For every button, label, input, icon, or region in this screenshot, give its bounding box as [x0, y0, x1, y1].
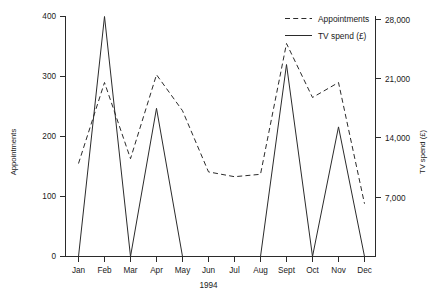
legend-label-tv-spend: TV spend (£) — [318, 31, 367, 41]
series-line-appointments — [79, 44, 365, 204]
x-axis: Jan Feb Mar Apr May Jun Jul Aug Sept Oct… — [66, 257, 376, 291]
x-label-mar: Mar — [123, 266, 137, 275]
x-label-feb: Feb — [97, 266, 112, 275]
data-series-group — [79, 17, 365, 257]
left-tick-label-100: 100 — [42, 192, 56, 201]
left-tick-label-400: 400 — [42, 12, 56, 21]
chart-canvas: 400 300 200 100 0 Appointments 28,000 21… — [0, 0, 434, 298]
line-chart: 400 300 200 100 0 Appointments 28,000 21… — [0, 0, 434, 298]
x-label-jan: Jan — [72, 266, 86, 275]
right-tick-label-28000: 28,000 — [385, 16, 410, 25]
left-tick-label-300: 300 — [42, 72, 56, 81]
left-tick-label-200: 200 — [42, 132, 56, 141]
legend-label-appointments: Appointments — [318, 14, 369, 24]
left-y-axis: 400 300 200 100 0 Appointments — [9, 12, 66, 261]
series-line-tv-spend — [79, 17, 365, 257]
x-axis-title: 1994 — [199, 281, 218, 290]
left-axis-title: Appointments — [9, 129, 18, 176]
right-tick-label-7000: 7,000 — [385, 194, 406, 203]
right-y-axis: 28,000 21,000 14,000 7,000 TV spend (£) — [376, 16, 428, 257]
x-label-nov: Nov — [331, 266, 346, 275]
right-tick-label-14000: 14,000 — [385, 134, 410, 143]
right-tick-label-21000: 21,000 — [385, 75, 410, 84]
x-label-apr: Apr — [150, 266, 163, 275]
left-tick-label-0: 0 — [51, 252, 56, 261]
x-label-oct: Oct — [306, 266, 319, 275]
x-label-sept: Sept — [278, 266, 296, 275]
x-label-may: May — [175, 266, 191, 275]
legend: Appointments TV spend (£) — [285, 14, 369, 41]
right-axis-title: TV spend (£) — [418, 130, 427, 174]
x-label-dec: Dec — [357, 266, 372, 275]
x-label-aug: Aug — [253, 266, 268, 275]
x-label-jul: Jul — [229, 266, 240, 275]
x-label-jun: Jun — [202, 266, 216, 275]
